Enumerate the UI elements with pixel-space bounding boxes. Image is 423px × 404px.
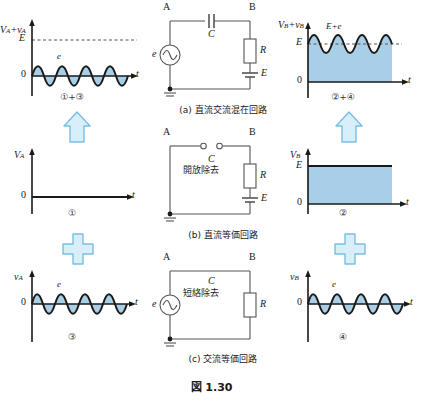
y-tick-label-zero: 0 <box>21 297 26 307</box>
arrow-up-icon-left <box>58 108 98 150</box>
graph-top-left-svg <box>0 8 145 103</box>
open-terminal-left <box>201 143 207 149</box>
plus-icon-left <box>58 228 98 270</box>
y-tick-label-E: E <box>296 160 302 170</box>
circuit-a-svg <box>150 5 275 100</box>
y-tick-label-zero: 0 <box>297 197 302 207</box>
graph-index-label-mid-left: ① <box>12 208 132 218</box>
circuit-c-capacitor-label: C <box>208 276 215 286</box>
wave-label-e: e <box>332 280 336 289</box>
resistor-body <box>244 164 256 188</box>
circuit-b-resistor-label: R <box>260 170 266 180</box>
wave-fill-top-right <box>308 35 392 82</box>
circuit-c-resistor-label: R <box>260 299 266 309</box>
x-axis-label-t: t <box>406 197 409 207</box>
open-terminal-right <box>217 143 223 149</box>
y-axis-arrowhead <box>305 22 311 29</box>
graph-index-label-top-right: ②+④ <box>283 92 403 102</box>
circuit-a-node-b-label: B <box>249 2 256 12</box>
graph-index-label-bottom-right: ④ <box>283 332 403 342</box>
y-axis-arrowhead <box>29 19 35 26</box>
junction-dot <box>168 87 173 92</box>
circuit-c-svg <box>150 255 275 350</box>
circuit-a-node-a-label: A <box>163 2 170 12</box>
wave-label-e: e <box>57 52 61 61</box>
y-axis-arrowhead <box>29 148 35 155</box>
junction-dot <box>168 212 173 217</box>
y-tick-label-zero: 0 <box>21 69 26 79</box>
dc-fill-rect <box>308 166 392 204</box>
graph-bottom-right: vB 0 t e ④ <box>278 262 423 352</box>
plus-shape <box>335 234 365 264</box>
circuit-b-node-b-label: B <box>249 127 256 137</box>
graph-index-label-bottom-left: ③ <box>12 332 132 342</box>
circuit-b-battery-label: E <box>261 193 267 203</box>
plus-right-svg <box>330 228 370 270</box>
circuit-c-node-b-label: B <box>249 252 256 262</box>
wave-label-e: e <box>57 280 61 289</box>
y-tick-label-zero: 0 <box>297 297 302 307</box>
circuit-c: A B C 短絡除去 R e <box>150 255 275 350</box>
circuit-b-node-a-label: A <box>163 127 170 137</box>
y-tick-label-zero: 0 <box>297 75 302 85</box>
arrow-up-shape <box>336 112 362 142</box>
circuit-b-caption: (b) 直流等価回路 <box>148 228 298 241</box>
y-tick-label-E: E <box>19 33 25 43</box>
plus-icon-right <box>330 228 370 270</box>
junction-dot <box>168 337 173 342</box>
graph-mid-right: VB E 0 t ② <box>278 138 423 223</box>
circuit-b-note: 開放除去 <box>183 166 219 175</box>
figure-caption: 図 1.30 <box>0 378 423 394</box>
circuit-a: A B C R E e <box>150 5 275 100</box>
x-axis-label-t: t <box>135 297 138 307</box>
resistor-body <box>244 293 256 317</box>
graph-mid-left: VA 0 t ① <box>0 138 145 223</box>
arrow-up-right-svg <box>330 108 370 150</box>
ac-source-sine <box>163 301 177 310</box>
y-axis-arrowhead <box>29 270 35 277</box>
graph-bottom-left: vA 0 t e ③ <box>0 262 145 352</box>
y-axis-label-top-right: VB+vB <box>278 20 304 30</box>
y-tick-label-E: E <box>296 37 302 47</box>
circuit-c-node-a-label: A <box>163 252 170 262</box>
circuit-c-note: 短絡除去 <box>183 289 219 298</box>
circuit-b-capacitor-label: C <box>208 154 215 164</box>
x-axis-label-t: t <box>408 75 411 85</box>
x-axis-label-t: t <box>136 69 139 79</box>
graph-index-label-top-left: ①+③ <box>12 92 132 102</box>
y-axis-label-mid-left: VA <box>14 150 24 160</box>
circuit-c-caption: (c) 交流等価回路 <box>148 352 298 365</box>
ac-source-sine <box>163 51 177 60</box>
circuit-c-source-label: e <box>152 299 156 309</box>
circuit-a-resistor-label: R <box>260 45 266 55</box>
plus-left-svg <box>58 228 98 270</box>
graph-index-label-mid-right: ② <box>283 208 403 218</box>
y-axis-arrowhead <box>305 148 311 155</box>
x-axis-label-t: t <box>410 297 413 307</box>
resistor-body <box>244 39 256 63</box>
wave-label-E-plus-e: E+e <box>326 22 342 31</box>
figure-1-30: VA+vA E 0 t e ①+③ VB+vB E 0 t E+e ②+④ <box>0 0 423 404</box>
y-tick-label-zero: 0 <box>21 190 26 200</box>
graph-top-right: VB+vB E 0 t E+e ②+④ <box>278 8 423 103</box>
arrow-up-icon-right <box>330 108 370 150</box>
graph-top-left: VA+vA E 0 t e ①+③ <box>0 8 145 103</box>
x-axis-label-t: t <box>132 190 135 200</box>
circuit-a-source-label: e <box>152 49 156 59</box>
arrow-up-shape <box>64 112 90 142</box>
y-axis-label-bottom-left: vA <box>14 272 23 282</box>
circuit-a-caption: (a) 直流交流混在回路 <box>148 103 298 116</box>
circuit-a-battery-label: E <box>261 68 267 78</box>
circuit-b-svg <box>150 130 275 225</box>
y-axis-arrowhead <box>305 270 311 277</box>
circuit-b: A B C 開放除去 R E <box>150 130 275 225</box>
circuit-a-capacitor-label: C <box>208 29 215 39</box>
y-axis-label-bottom-right: vB <box>290 272 299 282</box>
plus-shape <box>63 234 93 264</box>
arrow-up-left-svg <box>58 108 98 150</box>
